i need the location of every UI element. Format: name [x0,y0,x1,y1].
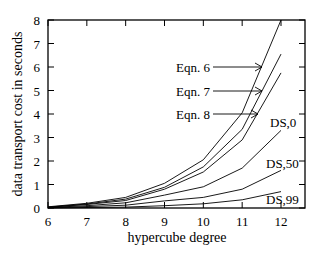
y-tick-label: 8 [34,13,41,28]
y-tick-label: 5 [34,84,41,99]
y-tick-label: 7 [34,37,41,52]
series-line [48,54,281,207]
label-eqn8: Eqn. 8 [176,107,210,122]
x-tick-label: 6 [45,214,52,229]
label-ds0: DS,0 [270,115,296,130]
series-line [48,20,281,207]
label-eqn6: Eqn. 6 [176,60,210,75]
line-chart: 6789101112012345678 Eqn. 6 Eqn. 7 Eqn. 8… [0,0,320,253]
chart-canvas: 6789101112012345678 Eqn. 6 Eqn. 7 Eqn. 8… [0,0,320,253]
y-tick-label: 4 [34,107,41,122]
x-tick-label: 10 [197,214,210,229]
x-tick-label: 8 [122,214,129,229]
y-tick-label: 0 [34,201,41,216]
y-tick-label: 2 [34,154,41,169]
x-tick-label: 11 [236,214,249,229]
x-tick-label: 12 [275,214,288,229]
label-eqn7: Eqn. 7 [176,84,210,99]
label-ds99: DS,99 [266,192,299,207]
tick-labels: 6789101112012345678 [34,13,288,229]
x-axis-label: hypercube degree [127,230,226,245]
y-axis-label: data transport cost in seconds [10,32,25,197]
y-tick-label: 1 [34,178,41,193]
x-tick-label: 7 [84,214,91,229]
y-tick-label: 6 [34,60,41,75]
y-tick-label: 3 [34,131,41,146]
series-line [48,130,281,207]
x-tick-label: 9 [161,214,168,229]
label-ds50: DS,50 [266,156,299,171]
